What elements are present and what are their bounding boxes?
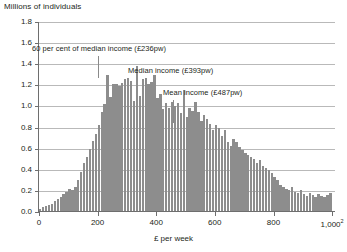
annotation-label-mean-income: Mean income (£487pw) <box>163 88 242 97</box>
annotation-pointer-sixty-per-cent-median <box>98 56 99 78</box>
x-tick-mark <box>332 212 333 216</box>
y-tick-label: 1.0 <box>6 101 32 110</box>
chart-canvas: Millions of individuals 0.00.20.40.60.81… <box>0 0 347 252</box>
x-tick-label: 600 <box>208 218 221 227</box>
x-tick-label: 1,0002 <box>321 218 344 229</box>
y-tick-label: 1.2 <box>6 80 32 89</box>
x-tick-mark <box>39 212 40 216</box>
y-tick-label: 0.2 <box>6 186 32 195</box>
annotation-pointer-median-income <box>145 78 146 100</box>
histogram-bar <box>329 193 331 212</box>
y-axis-title: Millions of individuals <box>4 2 81 11</box>
y-tick-label: 0.4 <box>6 165 32 174</box>
y-tick-mark <box>35 128 39 129</box>
x-axis-title: £ per week <box>0 234 347 243</box>
x-axis-line <box>38 211 335 212</box>
y-tick-mark <box>35 149 39 150</box>
y-tick-label: 1.8 <box>6 17 32 26</box>
y-tick-mark <box>35 22 39 23</box>
y-tick-mark <box>35 170 39 171</box>
x-axis-title-text: £ per week <box>154 234 193 243</box>
x-axis-footnote-marker: 2 <box>341 218 344 224</box>
x-tick-mark <box>98 212 99 216</box>
y-tick-mark <box>35 191 39 192</box>
x-tick-label: 400 <box>150 218 163 227</box>
x-tick-label: 200 <box>91 218 104 227</box>
x-tick-mark <box>215 212 216 216</box>
annotation-label-sixty-per-cent-median: 60 per cent of median income (£236pw) <box>32 44 166 53</box>
y-tick-label: 1.6 <box>6 38 32 47</box>
y-tick-mark <box>35 106 39 107</box>
y-tick-label: 0.0 <box>6 207 32 216</box>
y-tick-label: 0.6 <box>6 144 32 153</box>
annotation-pointer-mean-income <box>173 100 174 123</box>
y-tick-label: 0.8 <box>6 123 32 132</box>
y-tick-mark <box>35 64 39 65</box>
y-tick-mark <box>35 85 39 86</box>
x-tick-mark <box>274 212 275 216</box>
y-tick-label: 1.4 <box>6 59 32 68</box>
x-tick-label: 800 <box>267 218 280 227</box>
annotation-label-median-income: Median income (£393pw) <box>128 66 213 75</box>
x-tick-mark <box>156 212 157 216</box>
x-tick-label: 0 <box>37 218 41 227</box>
